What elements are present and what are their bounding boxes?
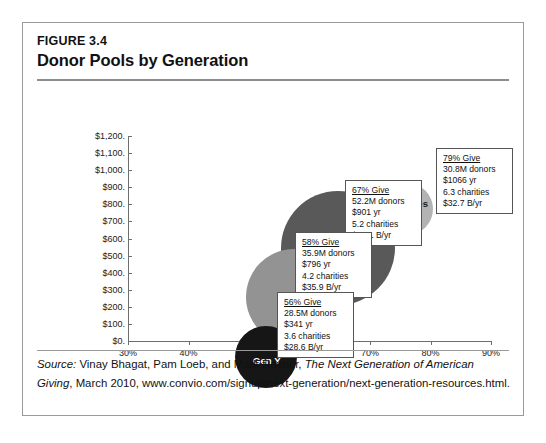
y-axis-tick-label: $400. <box>63 269 125 278</box>
figure-title: Donor Pools by Generation <box>37 50 507 70</box>
y-axis-tick-text: $1,100. <box>67 149 125 158</box>
y-axis-tick-mark <box>128 307 132 308</box>
y-axis-tick-text: $100. <box>67 320 125 329</box>
y-axis-tick-mark <box>128 221 132 222</box>
bubble-chart: $1,200.$1,100.$1,000.$900.$800.$700.$600… <box>23 83 523 351</box>
callout-boomers-annual: $901 yr <box>352 207 415 218</box>
callout-boomers-charities: 5.2 charities <box>352 219 415 230</box>
y-axis-tick-text: $300. <box>67 286 125 295</box>
x-axis-tick-mark <box>189 341 190 345</box>
y-axis-tick-mark <box>128 187 132 188</box>
y-axis-tick-label: $900. <box>63 183 125 192</box>
callout-genx-donors: 35.9M donors <box>302 248 365 259</box>
y-axis-tick-text: $1,000. <box>67 166 125 175</box>
callout-genx: 58% Give 35.9M donors $796 yr 4.2 charit… <box>295 232 372 298</box>
y-axis-tick-text: $200. <box>67 303 125 312</box>
y-axis-tick-mark <box>128 170 132 171</box>
x-axis-tick-mark <box>128 341 129 345</box>
y-axis-tick-mark <box>128 153 132 154</box>
y-axis-tick-label: $200. <box>63 303 125 312</box>
callout-geny-total: $28.6 B/yr <box>284 342 347 353</box>
callout-matures: 79% Give 30.8M donors $1066 yr 6.3 chari… <box>436 148 513 214</box>
y-axis-tick-text: $400. <box>67 269 125 278</box>
callout-matures-charities: 6.3 charities <box>443 187 506 198</box>
y-axis-tick-text: $600. <box>67 235 125 244</box>
source-divider <box>37 350 509 351</box>
y-axis-tick-mark <box>128 204 132 205</box>
callout-genx-give: 58% Give <box>302 237 365 248</box>
callout-genx-annual: $796 yr <box>302 259 365 270</box>
y-axis-tick-label: $1,000. <box>63 166 125 175</box>
y-axis-tick-text: $0. <box>67 337 125 346</box>
callout-geny-donors: 28.5M donors <box>284 308 347 319</box>
callout-matures-donors: 30.8M donors <box>443 164 506 175</box>
y-axis-tick-label: $1,100. <box>63 149 125 158</box>
callout-geny-annual: $341 yr <box>284 319 347 330</box>
figure-number: FIGURE 3.4 <box>37 33 507 49</box>
x-axis-tick-mark <box>370 341 371 345</box>
y-axis-tick-text: $900. <box>67 183 125 192</box>
y-axis-tick-label: $1,200. <box>63 132 125 141</box>
y-axis-tick-text: $700. <box>67 217 125 226</box>
callout-geny-charities: 3.6 charities <box>284 331 347 342</box>
y-axis-tick-mark <box>128 273 132 274</box>
y-axis-tick-text: $500. <box>67 252 125 261</box>
source-note: Source: Vinay Bhagat, Pam Loeb, and Mark… <box>37 355 511 392</box>
y-axis-tick-label: $100. <box>63 320 125 329</box>
y-axis-tick-label: $600. <box>63 235 125 244</box>
y-axis-tick-mark <box>128 290 132 291</box>
title-divider <box>37 79 509 81</box>
y-axis-tick-mark <box>128 256 132 257</box>
y-axis-tick-mark <box>128 324 132 325</box>
x-axis-tick-mark <box>431 341 432 345</box>
x-axis-tick-mark <box>491 341 492 345</box>
source-label: Source: <box>37 358 76 370</box>
figure-header: FIGURE 3.4 Donor Pools by Generation <box>37 33 507 70</box>
source-rest: , March 2010, www.convio.com/signup/next… <box>69 377 510 389</box>
figure-container: FIGURE 3.4 Donor Pools by Generation $1,… <box>22 22 524 416</box>
y-axis-tick-label: $700. <box>63 217 125 226</box>
y-axis-tick-label: $0. <box>63 337 125 346</box>
callout-matures-total: $32.7 B/yr <box>443 198 506 209</box>
callout-boomers-give: 67% Give <box>352 185 415 196</box>
y-axis-tick-label: $300. <box>63 286 125 295</box>
y-axis-tick-label: $500. <box>63 252 125 261</box>
y-axis-tick-label: $800. <box>63 200 125 209</box>
callout-genx-charities: 4.2 charities <box>302 271 365 282</box>
y-axis-tick-text: $1,200. <box>67 132 125 141</box>
y-axis-tick-mark <box>128 136 132 137</box>
callout-matures-annual: $1066 yr <box>443 175 506 186</box>
callout-matures-give: 79% Give <box>443 153 506 164</box>
source-authors: Vinay Bhagat, Pam Loeb, and Mark Rovner, <box>76 358 304 370</box>
callout-geny: 56% Give 28.5M donors $341 yr 3.6 charit… <box>277 292 354 358</box>
y-axis-tick-mark <box>128 239 132 240</box>
callout-boomers-donors: 52.2M donors <box>352 196 415 207</box>
callout-geny-give: 56% Give <box>284 297 347 308</box>
y-axis-tick-text: $800. <box>67 200 125 209</box>
